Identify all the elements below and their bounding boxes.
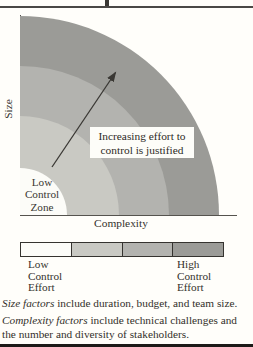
low-control-zone-line-1: Low [20, 176, 64, 188]
legend-high-line-3: Effort [177, 282, 211, 294]
annotation-line-1: Increasing effort to [98, 130, 185, 142]
legend-low-line-1: Low [28, 259, 62, 271]
y-axis-label: Size [2, 89, 16, 129]
legend-cell-high [172, 243, 223, 256]
legend-cell-low [21, 243, 71, 256]
annotation-box: Increasing effort to control is justifie… [90, 127, 194, 158]
annotation-line-2: control is justified [101, 144, 184, 156]
x-axis-line [20, 215, 237, 216]
legend-cell-medium-low [71, 243, 122, 256]
size-factors-note: Size factors include duration, budget, a… [2, 297, 252, 311]
size-factors-rest: include duration, budget, and team size. [54, 297, 237, 309]
low-control-zone-label: Low Control Zone [20, 176, 64, 213]
legend-cell-medium-high [122, 243, 173, 256]
complexity-factors-rest-1: include technical challenges and [88, 314, 237, 326]
legend-label-low-control-effort: Low Control Effort [28, 259, 62, 294]
quarter-circle-plot: Increasing effort to control is justifie… [20, 16, 237, 215]
legend-label-high-control-effort: High Control Effort [177, 259, 211, 294]
complexity-factors-note: Complexity factors include technical cha… [2, 314, 252, 341]
footnotes: Size factors include duration, budget, a… [2, 297, 252, 345]
size-factors-lead: Size factors [2, 297, 54, 309]
figure: Increasing effort to control is justifie… [0, 0, 253, 347]
x-axis-label: Complexity [20, 217, 222, 229]
complexity-factors-lead: Complexity factors [2, 314, 88, 326]
control-effort-legend-bar [20, 242, 224, 257]
legend-low-line-3: Effort [28, 282, 62, 294]
low-control-zone-line-3: Zone [20, 201, 64, 213]
low-control-zone-line-2: Control [20, 188, 64, 200]
top-rule [0, 6, 253, 8]
complexity-factors-rest-2: the number and diversity of stakeholders… [2, 328, 189, 340]
legend-high-line-1: High [177, 259, 211, 271]
